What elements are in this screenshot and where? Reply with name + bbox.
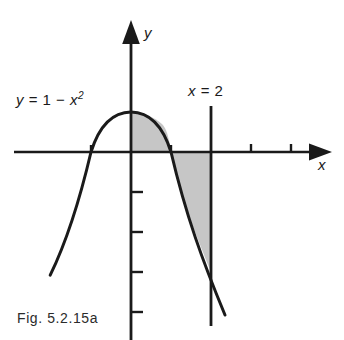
curve-equation-body: = 1 − [24,91,70,108]
x-axis-label: x [318,156,326,173]
curve-equation-exponent: 2 [78,90,84,101]
y-axis-label: y [144,24,152,41]
curve-equation-y: y [16,91,24,108]
shaded-region-below-axis [171,152,211,272]
curve-equation-x: x [70,91,78,108]
curve-equation-label: y = 1 − x2 [16,90,84,108]
y-axis-arrowhead [122,20,140,44]
vertical-line-label-value: = 2 [196,82,223,99]
figure-container: y = 1 − x2 x = 2 y x Fig. 5.2.15a [0,0,344,340]
vertical-line-label-x: x [188,82,196,99]
figure-caption: Fig. 5.2.15a [17,310,98,326]
parabola-plot [0,0,344,340]
vertical-line-label: x = 2 [188,82,223,99]
